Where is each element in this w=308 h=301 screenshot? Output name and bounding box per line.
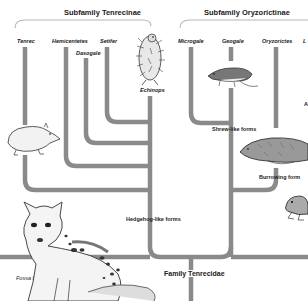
echinops-illustration-icon xyxy=(132,28,168,86)
genus-hemicentetes-label: Hemicentetes xyxy=(52,38,88,44)
tenrec-illustration-icon xyxy=(4,121,60,157)
subfamily-oryzorictinae-label: Subfamily Oryzorictinae xyxy=(204,8,290,17)
oryzorictes-illustration-icon xyxy=(238,134,308,166)
genus-setifer-label: Setifer xyxy=(100,38,117,44)
fossa-fossa-illustration-icon xyxy=(8,198,158,301)
shrew-like-forms-label: Shrew-like forms xyxy=(212,126,256,132)
genus-cutoff-label: L xyxy=(303,38,306,44)
genus-geogale-label: Geogale xyxy=(222,38,244,44)
genus-microgale-label: Microgale xyxy=(178,38,204,44)
family-tenrecidae-label: Family Tenrecidae xyxy=(163,270,226,277)
burrowing-form-label: Burrowing form xyxy=(259,174,300,180)
genus-oryzorictes-label: Oryzorictes xyxy=(262,38,292,44)
branch-tenrec-lower xyxy=(25,155,150,190)
genus-tenrec-label: Tenrec xyxy=(17,38,35,44)
cutoff-lower-label: A xyxy=(304,101,308,107)
genus-echinops-label: Echinops xyxy=(140,87,165,93)
aquatic-tenrec-illustration-icon xyxy=(280,192,308,222)
tenrec-phylogeny-diagram: Subfamily Tenrecinae Subfamily Oryzorict… xyxy=(0,0,308,301)
genus-dasogale-label: Dasogale xyxy=(76,50,100,56)
oryzorictinae-bracket xyxy=(180,20,308,28)
geogale-illustration-icon xyxy=(204,62,260,90)
subfamily-tenrecinae-label: Subfamily Tenrecinae xyxy=(64,8,141,17)
tenrecinae-bracket xyxy=(15,20,151,28)
